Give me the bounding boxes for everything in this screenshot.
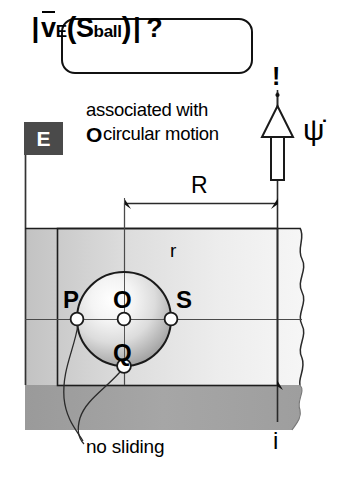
vector-overbar <box>42 11 55 13</box>
close-paren: ) <box>122 12 131 45</box>
diagram-canvas: |vE(Sball)|? associated with O circular … <box>0 0 351 478</box>
omega-arrow-head <box>262 106 293 137</box>
question-mark: ? <box>142 13 162 44</box>
axis-label-i: i <box>273 429 278 453</box>
annotation-bullet-o: O <box>86 124 102 145</box>
point-O-marker <box>118 313 131 326</box>
point-label-P: P <box>63 288 79 312</box>
body-symbol: S <box>76 13 94 44</box>
formula-expression: |vE(Sball)|? <box>0 0 192 56</box>
point-label-O: O <box>113 288 132 312</box>
surface-bottom-band <box>25 385 302 430</box>
point-label-S: S <box>176 288 192 312</box>
dimension-label-r: r <box>170 241 176 260</box>
omega-arrow-shaft <box>271 135 284 180</box>
frame-subscript: E <box>56 22 67 42</box>
point-label-Q: Q <box>113 341 132 365</box>
dimension-label-R: R <box>191 174 208 197</box>
open-paren: ( <box>67 12 76 45</box>
body-subscript: ball <box>94 22 122 42</box>
annotation-line-1: associated with <box>86 101 208 120</box>
frame-flag-label: E <box>24 122 63 155</box>
callout-no-sliding: no sliding <box>86 437 164 456</box>
psi-dot-symbol: ψ̇ <box>303 115 324 145</box>
exclamation-mark: ! <box>272 64 280 89</box>
abs-bar-left: | <box>30 12 41 44</box>
annotation-line-2: circular motion <box>103 125 219 144</box>
exclamation-dot <box>275 93 279 97</box>
abs-bar-right: | <box>131 12 142 44</box>
point-S-marker <box>165 313 178 326</box>
point-P-marker <box>71 313 84 326</box>
velocity-letter: v <box>41 13 56 43</box>
velocity-symbol: v <box>41 13 56 44</box>
